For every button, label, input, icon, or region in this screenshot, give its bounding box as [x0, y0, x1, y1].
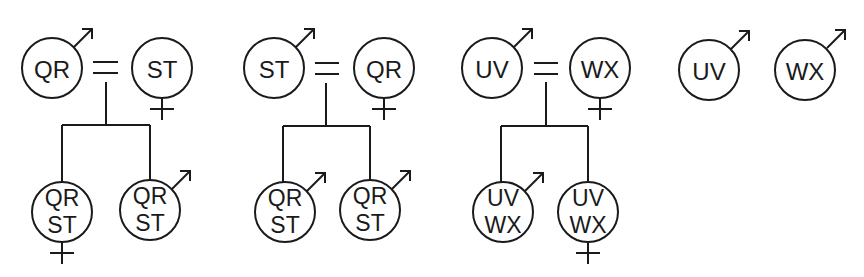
male-symbol-icon	[172, 171, 190, 189]
female-symbol-icon	[588, 98, 612, 120]
male-symbol-icon	[296, 29, 314, 47]
child-node-male: QR ST	[340, 171, 410, 240]
male-symbol-icon	[392, 171, 410, 189]
node-label-line2: ST	[355, 210, 384, 236]
node-label-line2: WX	[569, 212, 606, 238]
female-symbol-icon	[576, 242, 600, 264]
male-symbol-icon	[731, 31, 749, 49]
descent-lines	[501, 82, 588, 182]
parent-node-male: UV	[462, 29, 532, 98]
parent-node-female: WX	[570, 38, 630, 120]
node-label: UV	[692, 58, 725, 85]
node-label-line1: UV	[572, 185, 605, 211]
node-label-line2: WX	[484, 212, 521, 238]
child-node-female: QR ST	[32, 182, 92, 264]
node-label: QR	[366, 56, 402, 83]
male-symbol-icon	[514, 29, 532, 47]
node-label: WX	[581, 56, 620, 83]
parent-node-female: QR	[354, 38, 414, 120]
node-label: QR	[34, 56, 70, 83]
female-symbol-icon	[50, 242, 74, 264]
marriage-symbol	[534, 63, 558, 74]
child-node-male: QR ST	[120, 171, 190, 240]
male-symbol-icon	[74, 29, 92, 47]
parent-node-male: ST	[244, 29, 314, 98]
child-node-male: UV WX	[473, 173, 543, 242]
parent-node-female: ST	[132, 38, 192, 120]
node-label-line2: ST	[135, 210, 164, 236]
male-symbol-icon	[307, 173, 325, 191]
child-node-female: UV WX	[558, 182, 618, 264]
node-label: ST	[147, 56, 178, 83]
descent-lines	[62, 82, 150, 182]
marriage-symbol	[315, 63, 339, 74]
individual-node-male: WX	[775, 30, 845, 100]
female-symbol-icon	[150, 98, 174, 120]
node-label: ST	[259, 56, 290, 83]
node-label-line1: QR	[268, 185, 303, 211]
family-group-3: UV WX UV WX UV WX	[462, 29, 630, 264]
pedigree-diagram: QR ST QR ST QR ST	[0, 0, 864, 277]
node-label: WX	[786, 58, 825, 85]
node-label-line1: QR	[45, 185, 80, 211]
descent-lines	[283, 83, 370, 182]
single-individuals: UV WX	[679, 30, 845, 100]
parent-node-male: QR	[22, 29, 92, 98]
family-group-1: QR ST QR ST QR ST	[22, 29, 192, 264]
individual-node-male: UV	[679, 31, 749, 100]
node-label-line1: UV	[487, 185, 520, 211]
family-group-2: ST QR QR ST QR ST	[244, 29, 414, 242]
node-label-line1: QR	[133, 183, 168, 209]
female-symbol-icon	[372, 98, 396, 120]
node-label: UV	[475, 56, 508, 83]
marriage-symbol	[93, 62, 118, 73]
node-label-line1: QR	[353, 183, 388, 209]
node-label-line2: ST	[47, 212, 76, 238]
male-symbol-icon	[525, 173, 543, 191]
male-symbol-icon	[827, 30, 845, 48]
node-label-line2: ST	[270, 212, 299, 238]
child-node-male: QR ST	[255, 173, 325, 242]
